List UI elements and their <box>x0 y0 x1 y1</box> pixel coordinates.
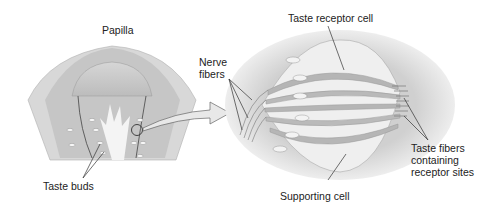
label-supporting-cell: Supporting cell <box>280 190 349 202</box>
label-nerve-fibers-2: fibers <box>199 68 225 80</box>
label-taste-receptor-cell: Taste receptor cell <box>288 12 373 24</box>
label-taste-fibers-3: receptor sites <box>411 166 474 178</box>
label-taste-fibers-2: containing <box>411 154 459 166</box>
taste-bud-diagram: Papilla Taste buds Nerve fibers Taste re… <box>0 0 498 211</box>
label-papilla: Papilla <box>102 24 134 36</box>
papilla-illustration <box>28 46 196 160</box>
label-taste-buds: Taste buds <box>43 180 94 192</box>
label-taste-fibers-1: Taste fibers <box>411 142 465 154</box>
label-nerve-fibers-1: Nerve <box>199 56 227 68</box>
